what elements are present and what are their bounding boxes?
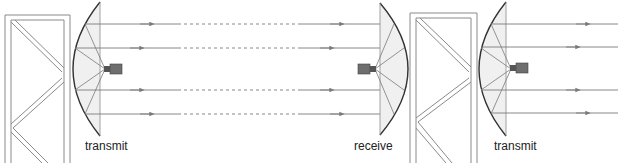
relay-beam-link-1 xyxy=(75,24,400,114)
right-lattice-tower xyxy=(410,13,477,163)
left-lattice-tower xyxy=(5,15,70,163)
left-transmit-label: transmit xyxy=(85,139,128,153)
right-transmit-label: transmit xyxy=(494,139,537,153)
middle-receive-dish xyxy=(358,3,408,135)
left-transmit-dish xyxy=(73,2,122,136)
right-feed-horn xyxy=(510,63,528,73)
middle-feed-horn xyxy=(358,64,376,74)
right-transmit-dish xyxy=(479,2,528,136)
microwave-relay-diagram: transmit receive transmit xyxy=(0,0,621,163)
left-feed-horn xyxy=(104,64,122,74)
middle-receive-label: receive xyxy=(354,139,393,153)
